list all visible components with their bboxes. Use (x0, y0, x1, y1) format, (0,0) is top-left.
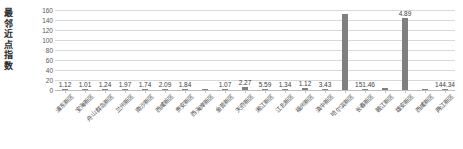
x-axis-category-label: 西咸新区 (153, 92, 176, 115)
x-axis-tick (225, 90, 226, 93)
bar-value-label: 4.89 (399, 10, 412, 17)
y-axis-tick-label: 100 (31, 37, 53, 44)
bar-group: 2.27 (242, 10, 248, 90)
bar-value-label: 1.84 (179, 81, 192, 88)
plot-area: 1.121.011.241.971.742.091.841.072.275.59… (55, 10, 455, 90)
bar-group: 151.46 (362, 10, 368, 90)
x-axis-tick (445, 90, 446, 93)
x-axis-category-label: 天府新区 (233, 92, 256, 115)
bar-value-label: 1.97 (119, 81, 132, 88)
gridline (55, 90, 455, 91)
x-axis-tick (125, 90, 126, 93)
x-axis-category-label: 福州新区 (293, 92, 316, 115)
x-axis-tick (345, 90, 346, 93)
x-axis-tick (245, 90, 246, 93)
bar-value-label: 1.34 (279, 81, 292, 88)
bar-group: 1.01 (82, 10, 88, 90)
bar[interactable] (342, 14, 348, 90)
gridline (55, 70, 455, 71)
bar-group: 1.97 (122, 10, 128, 90)
bar-value-label: 2.09 (159, 81, 172, 88)
y-axis-tick-label: 120 (31, 27, 53, 34)
bar-value-label: 2.27 (239, 79, 252, 86)
x-axis-tick (165, 90, 166, 93)
y-axis-tick-label: 0 (31, 87, 53, 94)
bar-value-label: 1.12 (299, 80, 312, 87)
x-axis-tick (205, 90, 206, 93)
bar-group: 1.12 (62, 10, 68, 90)
x-axis-category-label: 长春新区 (353, 92, 376, 115)
bar-group: 3.43 (322, 10, 328, 90)
bar-value-label: 1.24 (99, 81, 112, 88)
x-axis-tick (185, 90, 186, 93)
bar-value-label: 1.01 (79, 81, 92, 88)
bar-group: 1.24 (102, 10, 108, 90)
bar-value-label: 144.34 (435, 81, 455, 88)
y-axis-title: 最邻近点指数 (2, 8, 15, 71)
bar-group: 1.12 (302, 10, 308, 90)
gridline (55, 40, 455, 41)
x-axis-category-label: 浦东新区 (53, 92, 76, 115)
bar-group: 5.59 (262, 10, 268, 90)
x-axis-category-label: 赣江新区 (373, 92, 396, 115)
bar-group (342, 10, 348, 90)
gridline (55, 60, 455, 61)
gridline (55, 30, 455, 31)
bar-group: 1.34 (282, 10, 288, 90)
gridline (55, 20, 455, 21)
bar[interactable] (402, 18, 408, 90)
y-axis-tick-label: 20 (31, 77, 53, 84)
bar-group (382, 10, 388, 90)
x-axis-tick (145, 90, 146, 93)
bar-value-label: 3.43 (319, 81, 332, 88)
bar-value-label: 1.12 (59, 81, 72, 88)
bar-group: 1.84 (182, 10, 188, 90)
x-axis-tick (385, 90, 386, 93)
x-axis-category-label: 西咸新区 (413, 92, 436, 115)
x-axis-tick (405, 90, 406, 93)
x-axis-tick (425, 90, 426, 93)
gridline (55, 50, 455, 51)
bar-group: 4.89 (402, 10, 408, 90)
x-axis-tick (265, 90, 266, 93)
bar-value-label: 1.74 (139, 81, 152, 88)
nearest-neighbor-index-bar-chart: 最邻近点指数 020406080100120140160 1.121.011.2… (0, 0, 463, 149)
y-axis-tick-label: 80 (31, 47, 53, 54)
bar-group (422, 10, 428, 90)
x-axis-category-label: 南沙新区 (133, 92, 156, 115)
gridline (55, 10, 455, 11)
x-axis-tick (305, 90, 306, 93)
x-axis-category-labels: 浦东新区宝海新区舟山群岛新区兰州新区南沙新区西咸新区贵安新区西海岸新区金普新区天… (55, 92, 455, 149)
x-axis-tick (365, 90, 366, 93)
bar-value-label: 151.46 (355, 81, 375, 88)
x-axis-tick (285, 90, 286, 93)
x-axis-category-label: 江北新区 (273, 92, 296, 115)
bar-group: 1.74 (142, 10, 148, 90)
x-axis-category-label: 金普新区 (213, 92, 236, 115)
x-axis-tick (325, 90, 326, 93)
x-axis-tick (85, 90, 86, 93)
y-axis-tick-label: 140 (31, 17, 53, 24)
bar-value-label: 5.59 (259, 81, 272, 88)
x-axis-category-label: 湘江新区 (253, 92, 276, 115)
gridline (55, 80, 455, 81)
y-axis-tick-label: 160 (31, 7, 53, 14)
bar-group (202, 10, 208, 90)
x-axis-category-label: 兰州新区 (113, 92, 136, 115)
bar-group: 144.34 (442, 10, 448, 90)
y-axis-tick-label: 40 (31, 67, 53, 74)
bar-group: 1.07 (222, 10, 228, 90)
y-axis-tick-labels: 020406080100120140160 (27, 10, 53, 90)
y-axis-tick-label: 60 (31, 57, 53, 64)
x-axis-category-label: 两江新区 (433, 92, 456, 115)
bar-group: 2.09 (162, 10, 168, 90)
bar-value-label: 1.07 (219, 81, 232, 88)
x-axis-tick (65, 90, 66, 93)
x-axis-tick (105, 90, 106, 93)
x-axis-category-label: 雄安新区 (393, 92, 416, 115)
